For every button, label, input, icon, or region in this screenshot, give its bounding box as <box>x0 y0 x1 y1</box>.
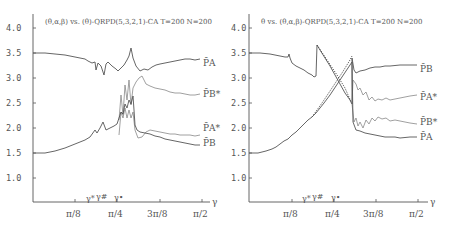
right-chart-title: θ vs. (θ,α,β)-QRPD(5,3,2,1)-CA T=200 N=2… <box>261 18 422 26</box>
left-ytick-2.5: 2.5 <box>6 98 21 108</box>
left-series-PB-bar <box>33 96 200 153</box>
left-ytick-3.5: 3.5 <box>6 48 21 58</box>
left-label-PA-bar: P̄A <box>203 57 216 68</box>
right-ytick-2.5: 2.5 <box>231 98 246 108</box>
right-ytick-1.0: 1.0 <box>231 173 246 183</box>
left-ytick-3.0: 3.0 <box>6 73 21 83</box>
right-series-PA-star <box>352 80 417 104</box>
right-xtick-pi2: π/2 <box>409 209 424 219</box>
right-series-PB-bar <box>249 45 417 104</box>
left-gamma-dot: γ• <box>114 193 124 202</box>
right-gamma-hash: γ# <box>312 192 324 201</box>
left-series-PA-star <box>119 108 200 138</box>
left-series-PB-star <box>119 76 200 120</box>
left-chart-title: (θ,α,β) vs. (θ)-QRPD(5,3,2,1)-CA T=200 N… <box>45 18 212 26</box>
right-ytick-2.0: 2.0 <box>231 123 246 133</box>
left-chart: (θ,α,β) vs. (θ)-QRPD(5,3,2,1)-CA T=200 N… <box>6 14 221 219</box>
right-label-PB-bar: P̄B <box>420 63 433 74</box>
right-series-PA-bar-crossing <box>312 56 352 117</box>
right-ytick-3.5: 3.5 <box>231 48 246 58</box>
left-label-PB-bar: P̄B <box>203 137 216 148</box>
right-xtick-pi8: π/8 <box>283 209 298 219</box>
left-gamma-hash: γ# <box>96 192 108 201</box>
left-xtick-pi4: π/4 <box>108 209 123 219</box>
right-series-PA-bar <box>249 62 417 153</box>
right-ytick-1.5: 1.5 <box>231 148 246 158</box>
left-xaxis-label: γ <box>212 197 217 207</box>
figure: (θ,α,β) vs. (θ)-QRPD(5,3,2,1)-CA T=200 N… <box>0 0 451 227</box>
left-label-PB-star: P̄B* <box>203 88 221 99</box>
left-gamma-star: γ* <box>86 194 95 203</box>
left-ytick-4.0: 4.0 <box>6 23 21 33</box>
right-gamma-star: γ* <box>302 194 311 203</box>
right-xtick-pi4: π/4 <box>325 209 340 219</box>
left-ytick-2.0: 2.0 <box>6 123 21 133</box>
left-xtick-pi2: π/2 <box>193 209 208 219</box>
right-label-PA-bar: P̄A <box>420 131 433 142</box>
left-xtick-pi8: π/8 <box>66 209 81 219</box>
right-label-PB-star: P̄B* <box>420 116 438 127</box>
left-series-PA-bar <box>33 48 200 75</box>
right-gamma-dot: γ• <box>331 193 341 202</box>
left-ytick-1.0: 1.0 <box>6 173 21 183</box>
right-chart: θ vs. (θ,α,β)-QRPD(5,3,2,1)-CA T=200 N=2… <box>231 14 438 219</box>
left-label-PA-star: P̄A* <box>203 122 221 133</box>
right-xaxis-label: γ <box>430 197 435 207</box>
left-ytick-1.5: 1.5 <box>6 148 21 158</box>
right-xtick-3pi8: 3π/8 <box>363 209 384 219</box>
right-label-PA-star: P̄A* <box>420 91 438 102</box>
right-ytick-3.0: 3.0 <box>231 73 246 83</box>
right-ytick-4.0: 4.0 <box>231 23 246 33</box>
right-series-PB-star <box>352 104 417 128</box>
left-xtick-3pi8: 3π/8 <box>147 209 168 219</box>
